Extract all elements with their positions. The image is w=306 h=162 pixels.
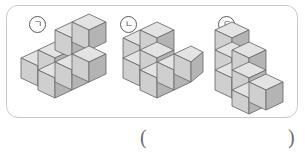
- cube: [72, 46, 106, 82]
- figure-a-svg: [13, 6, 121, 119]
- worksheet-root: ㄱ: [0, 0, 306, 162]
- cube: [72, 14, 106, 50]
- cube: [249, 74, 283, 110]
- figure-a-cubes: [13, 6, 121, 119]
- figure-a: ㄱ: [13, 6, 121, 119]
- answer-row: ( ): [0, 122, 306, 162]
- figure-b: ㄴ: [107, 6, 215, 119]
- answer-input[interactable]: [150, 122, 286, 152]
- figure-b-svg: [107, 6, 215, 119]
- figure-c-svg: [203, 6, 303, 119]
- figure-b-cubes: [107, 6, 215, 119]
- figures-panel: ㄱ: [6, 5, 298, 118]
- answer-open-paren: (: [140, 122, 147, 152]
- answer-close-paren: ): [288, 122, 295, 152]
- figure-c: ㄷ: [203, 6, 303, 119]
- figure-c-cubes: [203, 6, 303, 119]
